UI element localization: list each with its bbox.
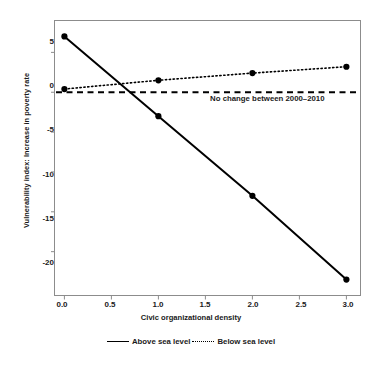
legend-label: Below sea level — [217, 337, 275, 346]
data-point-marker — [249, 70, 255, 76]
data-point-marker — [61, 33, 67, 39]
series-line-1 — [64, 36, 346, 279]
solid-line-swatch-icon — [107, 341, 129, 342]
data-series-layer — [61, 33, 349, 282]
x-axis-ticks — [64, 296, 346, 300]
data-point-marker — [249, 193, 255, 199]
chart-container: Vulnerability index: Increase in poverty… — [0, 0, 382, 368]
plot-area — [0, 0, 382, 368]
chart-legend: Above sea level Below sea level — [0, 337, 382, 346]
data-point-marker — [155, 77, 161, 83]
legend-item-above-sea-level[interactable]: Above sea level — [107, 337, 191, 346]
no-change-annotation: No change between 2000–2010 — [210, 94, 324, 103]
series-line-2 — [64, 67, 346, 89]
dotted-line-swatch-icon — [192, 341, 214, 342]
legend-item-below-sea-level[interactable]: Below sea level — [192, 337, 275, 346]
data-point-marker — [343, 64, 349, 70]
data-point-marker — [61, 86, 67, 92]
data-point-marker — [155, 113, 161, 119]
data-point-marker — [343, 276, 349, 282]
legend-label: Above sea level — [132, 337, 191, 346]
